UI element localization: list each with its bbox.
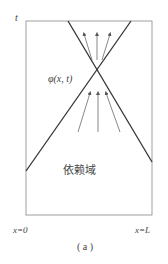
right-boundary-label: x=L [134, 225, 150, 235]
axis-t-label: t [15, 12, 18, 23]
arrow-icon [84, 34, 92, 60]
left-boundary-label: x=0 [12, 225, 28, 235]
point-label: φ(x, t) [48, 73, 73, 85]
caption: ( a ) [77, 241, 93, 253]
region-label: 依赖域 [63, 164, 96, 176]
characteristic-line-right [26, 21, 131, 171]
arrow-icon [106, 93, 120, 132]
characteristic-line-left [68, 21, 152, 162]
arrow-icon [78, 93, 90, 132]
dependency-domain-diagram: t φ(x, t) 依赖域 x=0 x=L ( a ) [0, 0, 168, 264]
